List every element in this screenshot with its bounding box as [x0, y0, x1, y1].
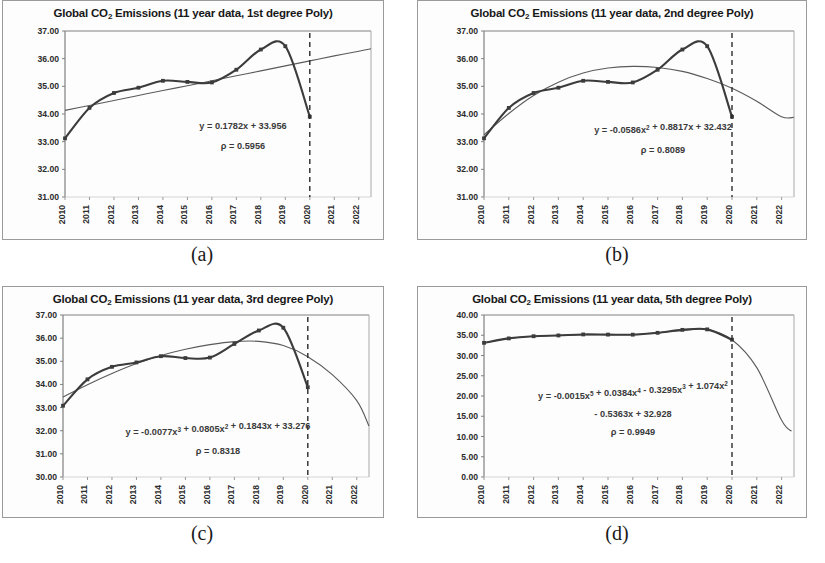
x-axis-tick-label: 2013	[550, 485, 560, 504]
y-axis-tick-label: 32.00	[37, 164, 59, 174]
x-axis-tick-label: 2020	[300, 485, 310, 504]
data-point-marker	[161, 79, 165, 83]
data-point-marker	[135, 361, 139, 365]
x-axis-tick-label: 2015	[600, 485, 610, 504]
data-point-marker	[482, 341, 486, 345]
x-axis-tick-label: 2022	[349, 485, 359, 504]
panel-caption-b: (b)	[417, 243, 817, 266]
data-point-marker	[681, 328, 685, 332]
y-axis-tick-label: 30.00	[456, 351, 478, 361]
data-point-marker	[306, 385, 310, 389]
y-axis-tick-label: 34.00	[35, 379, 57, 389]
data-point-marker	[283, 44, 287, 48]
data-point-marker	[184, 356, 188, 360]
data-point-marker	[581, 333, 585, 337]
y-axis-tick-label: 32.00	[456, 164, 478, 174]
x-axis-tick-label: 2017	[226, 485, 236, 504]
chart-panel-c: Global CO2 Emissions (11 year data, 3rd …	[2, 286, 402, 563]
y-axis-tick-label: 31.00	[456, 192, 478, 202]
y-axis-tick-label: 35.00	[456, 81, 478, 91]
y-axis-tick-label: 34.00	[456, 109, 478, 119]
data-point-marker	[86, 377, 90, 381]
x-axis-tick-label: 2013	[130, 205, 140, 224]
y-axis-tick-label: 36.00	[37, 54, 59, 64]
data-point-marker	[482, 136, 486, 140]
x-axis-tick-label: 2014	[153, 485, 163, 504]
y-axis-tick-label: 15.00	[456, 411, 478, 421]
x-axis-tick-label: 2014	[575, 485, 585, 504]
x-axis-tick-label: 2016	[202, 485, 212, 504]
data-point-marker	[186, 80, 190, 84]
x-axis-tick-label: 2012	[106, 205, 116, 224]
chart-frame-c: Global CO2 Emissions (11 year data, 3rd …	[2, 286, 384, 518]
x-axis-tick-label: 2022	[774, 485, 784, 504]
equation-annotation-line: y = -0.0586x2 + 0.8817x + 32.432	[594, 122, 732, 135]
data-point-marker	[656, 331, 660, 335]
x-axis-tick-label: 2018	[253, 205, 263, 224]
x-axis-tick-label: 2021	[326, 205, 336, 224]
equation-annotation-line: y = -0.0077x3 + 0.0805x2 + 0.1843x + 33.…	[126, 421, 311, 437]
data-point-marker	[606, 333, 610, 337]
x-axis-tick-label: 2013	[550, 205, 560, 224]
x-axis-tick-label: 2021	[749, 205, 759, 224]
y-axis-tick-label: 0.00	[461, 472, 478, 482]
x-axis-tick-label: 2018	[251, 485, 261, 504]
chart-plot-b: 37.0036.0035.0034.0033.0032.0031.0020102…	[418, 1, 808, 241]
data-point-marker	[257, 329, 261, 333]
chart-frame-a: Global CO2 Emissions (11 year data, 1st …	[2, 0, 384, 240]
data-point-marker	[581, 79, 585, 83]
x-axis-tick-label: 2019	[275, 485, 285, 504]
figure-grid: Global CO2 Emissions (11 year data, 1st …	[0, 0, 825, 563]
data-point-marker	[557, 334, 561, 338]
data-point-marker	[259, 48, 263, 52]
x-axis-tick-label: 2019	[699, 485, 709, 504]
x-axis-tick-label: 2022	[351, 205, 361, 224]
y-axis-tick-label: 33.00	[456, 137, 478, 147]
x-axis-tick-label: 2018	[674, 485, 684, 504]
y-axis-tick-label: 33.00	[37, 137, 59, 147]
data-point-marker	[110, 365, 114, 369]
y-axis-tick-label: 10.00	[456, 432, 478, 442]
x-axis-tick-label: 2010	[55, 485, 65, 504]
chart-frame-b: Global CO2 Emissions (11 year data, 2nd …	[417, 0, 807, 240]
y-axis-tick-label: 25.00	[456, 371, 478, 381]
x-axis-tick-label: 2019	[277, 205, 287, 224]
panel-caption-c: (c)	[2, 522, 402, 545]
x-axis-tick-label: 2014	[575, 205, 585, 224]
y-axis-tick-label: 35.00	[456, 330, 478, 340]
y-axis-tick-label: 40.00	[456, 310, 478, 320]
data-point-marker	[681, 48, 685, 52]
equation-annotation-line: ρ = 0.5956	[221, 141, 265, 151]
x-axis-tick-label: 2015	[177, 485, 187, 504]
data-point-marker	[507, 106, 511, 110]
data-point-marker	[705, 44, 709, 48]
chart-frame-d: Global CO2 Emissions (11 year data, 5th …	[417, 286, 807, 518]
y-axis-tick-label: 31.00	[37, 192, 59, 202]
y-axis-tick-label: 37.00	[456, 26, 478, 36]
y-axis-tick-label: 31.00	[35, 449, 57, 459]
y-axis-tick-label: 35.00	[37, 81, 59, 91]
data-point-marker	[112, 91, 116, 95]
y-axis-tick-label: 35.00	[35, 356, 57, 366]
x-axis-tick-label: 2018	[674, 205, 684, 224]
chart-plot-c: 37.0036.0035.0034.0033.0032.0031.0030.00…	[3, 287, 385, 519]
y-axis-tick-label: 36.00	[35, 333, 57, 343]
panel-caption-d: (d)	[417, 522, 817, 545]
data-point-marker	[281, 326, 285, 330]
data-series-line-c	[63, 324, 308, 406]
equation-annotation-line: - 0.5363x + 32.928	[594, 409, 671, 419]
equation-annotation-line: y = 0.1782x + 33.956	[199, 121, 286, 131]
y-axis-tick-label: 33.00	[35, 403, 57, 413]
x-axis-tick-label: 2012	[526, 485, 536, 504]
x-axis-tick-label: 2019	[699, 205, 709, 224]
data-point-marker	[507, 337, 511, 341]
data-point-marker	[631, 81, 635, 85]
data-point-marker	[232, 342, 236, 346]
data-point-marker	[61, 404, 65, 408]
trendline-c	[63, 341, 369, 426]
y-axis-tick-label: 20.00	[456, 391, 478, 401]
x-axis-tick-label: 2010	[476, 205, 486, 224]
x-axis-tick-label: 2020	[724, 485, 734, 504]
x-axis-tick-label: 2011	[79, 485, 89, 504]
x-axis-tick-label: 2010	[476, 485, 486, 504]
